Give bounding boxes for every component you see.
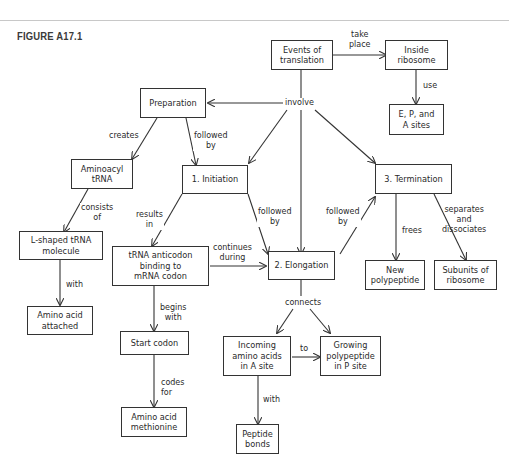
- node-growing-polypeptide: Growing polypeptide in P site: [320, 336, 381, 376]
- node-preparation: Preparation: [140, 88, 206, 118]
- node-events-of-translation: Events of translation: [271, 40, 333, 70]
- node-termination: 3. Termination: [375, 164, 452, 194]
- label-with-attached: with: [65, 280, 84, 290]
- node-l-shaped-trna: L-shaped tRNA molecule: [19, 231, 103, 260]
- label-take-place: take place: [348, 30, 372, 50]
- label-separates-dissociates: separates and dissociates: [441, 205, 487, 235]
- label-continues-during: continues during: [212, 243, 253, 263]
- node-amino-acid-methionine: Amino acid methionine: [121, 407, 187, 437]
- node-trna-anticodon: tRNA anticodon binding to mRNA codon: [112, 246, 209, 286]
- node-incoming-amino-acids: Incoming amino acids in A site: [223, 336, 291, 376]
- node-new-polypeptide: New polypeptide: [365, 260, 425, 290]
- label-begins-with: begins with: [159, 303, 188, 323]
- label-connects: connects: [284, 298, 322, 308]
- node-aminoacyl-trna: Aminoacyl tRNA: [71, 159, 133, 189]
- node-initiation: 1. Initiation: [182, 165, 248, 194]
- node-elongation: 2. Elongation: [268, 251, 335, 280]
- label-creates: creates: [108, 131, 140, 141]
- label-involve: involve: [284, 98, 315, 108]
- label-followed-by-init: followed by: [257, 207, 293, 227]
- label-use: use: [422, 81, 438, 91]
- node-start-codon: Start codon: [120, 331, 189, 355]
- node-amino-acid-attached: Amino acid attached: [27, 306, 93, 335]
- node-subunits-of-ribosome: Subunits of ribosome: [434, 260, 497, 290]
- label-frees: frees: [401, 226, 423, 236]
- label-followed-by-prep: followed by: [193, 131, 229, 151]
- label-to: to: [299, 344, 309, 354]
- label-consists-of: consists of: [80, 203, 114, 223]
- label-with-peptide: with: [262, 395, 281, 405]
- label-followed-by-elong: followed by: [325, 207, 361, 227]
- node-peptide-bonds: Peptide bonds: [236, 424, 279, 454]
- node-inside-ribosome: Inside ribosome: [385, 40, 448, 70]
- node-epa-sites: E, P, and A sites: [389, 104, 444, 135]
- label-codes-for: codes for: [160, 378, 185, 398]
- label-results-in: results in: [135, 210, 164, 230]
